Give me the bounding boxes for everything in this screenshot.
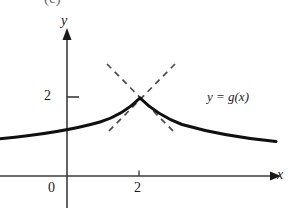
figure-panel: (c) y x 2 0 2 y = g(x): [0, 0, 292, 208]
y-axis-arrowhead: [63, 28, 72, 40]
x-axis-label: x: [277, 168, 283, 182]
y-axis: [63, 28, 80, 208]
curve-g-of-x: [0, 98, 276, 142]
y-tick-label-2: 2: [44, 89, 51, 103]
panel-tag-label: (c): [44, 0, 61, 6]
origin-label: 0: [48, 181, 55, 195]
graph-canvas: [0, 0, 292, 208]
curve-equation-label: y = g(x): [207, 90, 249, 103]
x-axis: [0, 171, 281, 181]
x-tick-label-2: 2: [134, 181, 141, 195]
y-axis-label: y: [61, 14, 67, 28]
